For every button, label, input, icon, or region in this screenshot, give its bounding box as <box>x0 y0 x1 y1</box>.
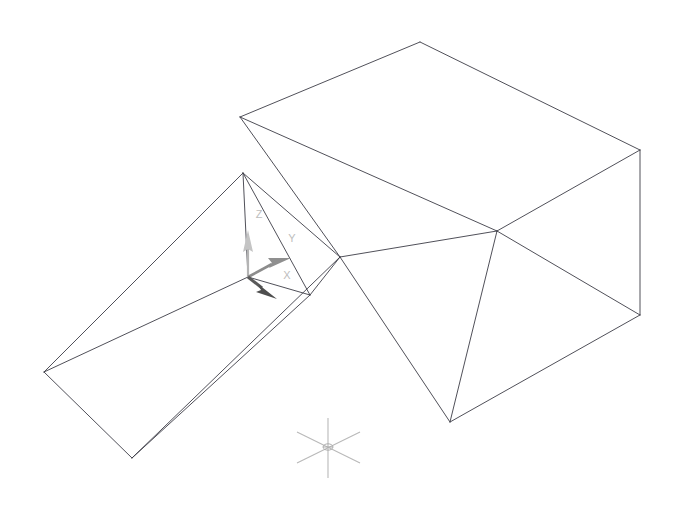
box-edge-top-back-left <box>240 42 420 117</box>
x-axis-arrowhead <box>256 284 277 299</box>
wedge-edge-near-end-vertical <box>243 173 310 295</box>
wedge-edge-bottom-diagonal <box>132 257 340 458</box>
y-axis-label: Y <box>288 232 296 244</box>
cad-3d-wireframe-viewport[interactable]: Z Y X <box>0 0 679 508</box>
z-axis-arrowhead <box>243 230 253 252</box>
wedge-edge-bottom-front <box>132 295 310 458</box>
wedge-edge-ridge-upper <box>44 173 243 372</box>
wireframe-scene: Z Y X <box>0 0 679 508</box>
open-top-rectangular-box[interactable] <box>240 42 640 422</box>
box-edge-top-back-right <box>420 42 640 150</box>
wedge-edge-origin-to-left-apex <box>44 277 248 372</box>
box-edge-bottom-front-left <box>340 257 450 422</box>
box-edge-interior-left <box>340 231 497 257</box>
box-edge-vertical-center <box>450 231 497 422</box>
coordinate-star-marker <box>297 418 360 478</box>
wedge-edge-left-end <box>44 372 132 458</box>
box-edge-top-front-right <box>497 150 640 231</box>
y-axis-shaft <box>248 264 272 277</box>
box-edge-top-front-left <box>240 117 497 231</box>
box-edge-bottom-front-right <box>450 315 640 422</box>
x-axis-label: X <box>283 269 291 281</box>
box-edge-interior-right <box>497 231 640 315</box>
wedge-edge-box-to-near-bottom <box>310 257 340 295</box>
z-axis-label: Z <box>256 208 263 220</box>
ucs-axis-z[interactable]: Z <box>243 208 263 277</box>
triangular-wedge-prism[interactable] <box>44 173 340 458</box>
